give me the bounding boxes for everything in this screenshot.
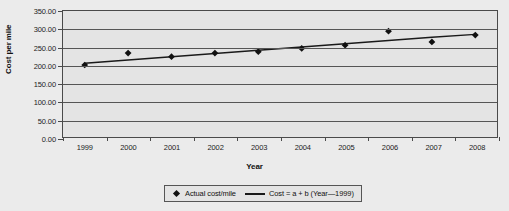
chart-legend: Actual cost/mile Cost = a + b (Year—1999… xyxy=(164,185,362,202)
y-axis-tick-label: 300.00 xyxy=(34,25,56,34)
y-axis-tick xyxy=(58,121,63,122)
x-axis-tick xyxy=(499,137,500,141)
gridline xyxy=(63,48,497,49)
legend-label-fit: Cost = a + b (Year—1999) xyxy=(269,189,354,198)
data-point-marker xyxy=(429,39,436,46)
y-axis-tick-label: 350.00 xyxy=(34,7,56,16)
data-point-marker xyxy=(472,32,479,39)
y-axis-tick-label: 150.00 xyxy=(34,80,56,89)
gridline xyxy=(63,121,497,122)
data-point-marker xyxy=(212,50,219,57)
x-axis-tick-label: 2007 xyxy=(425,143,441,152)
y-axis-tick-label: 50.00 xyxy=(38,116,56,125)
x-axis-tick xyxy=(281,137,282,141)
x-axis-tick xyxy=(107,137,108,141)
legend-entry-fit[interactable]: Cost = a + b (Year—1999) xyxy=(245,189,354,198)
x-axis-tick-label: 2000 xyxy=(120,143,136,152)
x-axis-tick-label: 2001 xyxy=(164,143,180,152)
data-point-marker xyxy=(168,53,175,60)
y-axis-tick xyxy=(58,29,63,30)
x-axis-tick xyxy=(150,137,151,141)
y-axis-tick xyxy=(58,66,63,67)
x-axis-tick xyxy=(368,137,369,141)
x-axis-tick-label: 2004 xyxy=(295,143,311,152)
x-axis-tick-label: 2002 xyxy=(207,143,223,152)
y-axis-tick-label: 100.00 xyxy=(34,98,56,107)
x-axis-tick xyxy=(63,137,64,141)
gridline xyxy=(63,102,497,103)
legend-label-actual: Actual cost/mile xyxy=(185,189,236,198)
y-axis-title: Cost per mile xyxy=(4,25,13,74)
gridline xyxy=(63,66,497,67)
x-axis-tick xyxy=(325,137,326,141)
x-axis-tick-label: 2006 xyxy=(382,143,398,152)
x-axis-tick-label: 2005 xyxy=(338,143,354,152)
y-axis-tick-label: 250.00 xyxy=(34,43,56,52)
legend-entry-actual[interactable]: Actual cost/mile xyxy=(172,189,236,198)
y-axis-tick xyxy=(58,48,63,49)
x-axis-title: Year xyxy=(0,162,509,171)
chart-container: Cost per mile 0.0050.00100.00150.00200.0… xyxy=(0,0,509,211)
diamond-marker-icon xyxy=(172,189,181,198)
x-axis-tick xyxy=(455,137,456,141)
gridline xyxy=(63,84,497,85)
trendline-series xyxy=(85,34,476,63)
x-axis-tick xyxy=(237,137,238,141)
data-point-marker xyxy=(125,50,132,57)
x-axis-tick-label: 1999 xyxy=(77,143,93,152)
y-axis-tick xyxy=(58,11,63,12)
y-axis-tick xyxy=(58,84,63,85)
x-axis-tick xyxy=(194,137,195,141)
line-marker-icon xyxy=(245,193,265,195)
data-point-marker xyxy=(255,48,262,55)
plot-area: 0.0050.00100.00150.00200.00250.00300.003… xyxy=(62,10,498,138)
y-axis-tick xyxy=(58,102,63,103)
y-axis-tick-label: 200.00 xyxy=(34,61,56,70)
x-axis-tick-label: 2008 xyxy=(469,143,485,152)
x-axis-tick-label: 2003 xyxy=(251,143,267,152)
y-axis-tick-label: 0.00 xyxy=(42,135,56,144)
x-axis-tick xyxy=(412,137,413,141)
gridline xyxy=(63,29,497,30)
